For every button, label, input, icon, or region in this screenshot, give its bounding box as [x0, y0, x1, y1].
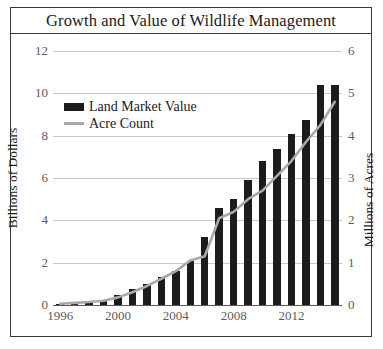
y-axis-right-tick-label: 2: [348, 212, 355, 228]
chart-legend: Land Market Value Acre Count: [64, 98, 197, 132]
x-axis-tick-label: 2008: [221, 308, 247, 324]
line-swatch-icon: [64, 122, 84, 125]
y-axis-right-tick-label: 3: [348, 170, 355, 186]
y-axis-left-tick-label: 10: [35, 85, 48, 101]
x-axis-tick-label: 2000: [105, 308, 131, 324]
plot-area: 024681012 0123456 19962000200420082012: [53, 51, 342, 305]
y-axis-right-tick-label: 6: [348, 43, 355, 59]
chart-figure: Growth and Value of Wildlife Management …: [0, 0, 383, 349]
y-axis-left-tick-label: 8: [42, 128, 49, 144]
y-axis-right-tick-label: 5: [348, 85, 355, 101]
y-axis-left-tick-label: 4: [42, 212, 49, 228]
bar-swatch-icon: [64, 103, 84, 111]
y-axis-right-label: Millions of Acres: [361, 153, 377, 248]
legend-label-land-market-value: Land Market Value: [89, 99, 197, 115]
title-divider: [11, 33, 371, 34]
y-axis-right-tick-label: 1: [348, 255, 355, 271]
y-axis-right-tick-label: 0: [348, 297, 355, 313]
legend-label-acre-count: Acre Count: [89, 116, 154, 132]
y-axis-left-label: Billions of Dollars: [5, 128, 21, 229]
gridline: [53, 305, 342, 306]
y-axis-left-tick-label: 2: [42, 255, 49, 271]
line-series-acre-count: [53, 51, 342, 305]
legend-item-land-market-value: Land Market Value: [64, 98, 197, 115]
y-axis-right-tick-label: 4: [348, 128, 355, 144]
acre-count-line: [60, 102, 335, 304]
chart-title: Growth and Value of Wildlife Management: [12, 11, 370, 31]
y-axis-left-tick-label: 12: [35, 43, 48, 59]
y-axis-left-tick-label: 6: [42, 170, 49, 186]
x-axis-tick-label: 2004: [163, 308, 189, 324]
x-axis-tick-label: 2012: [278, 308, 304, 324]
x-axis-tick-label: 1996: [47, 308, 73, 324]
legend-item-acre-count: Acre Count: [64, 115, 197, 132]
